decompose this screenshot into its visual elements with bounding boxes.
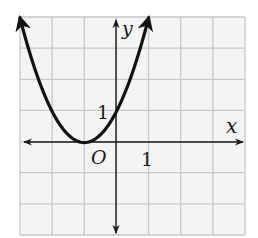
- y-axis-label: y: [121, 17, 133, 39]
- y-tick-label-1: 1: [97, 101, 109, 123]
- grid-background: [20, 17, 245, 235]
- coordinate-graph: y x O 1 1: [0, 0, 258, 238]
- x-axis-label: x: [226, 114, 237, 138]
- origin-label: O: [91, 146, 107, 168]
- x-tick-label-1: 1: [141, 148, 153, 170]
